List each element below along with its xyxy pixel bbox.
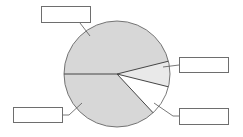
label-box-right-lower[interactable] xyxy=(179,108,229,125)
label-box-right-upper[interactable] xyxy=(179,57,229,73)
label-box-bottom-left[interactable] xyxy=(13,107,63,123)
label-box-top-left[interactable] xyxy=(41,6,91,23)
